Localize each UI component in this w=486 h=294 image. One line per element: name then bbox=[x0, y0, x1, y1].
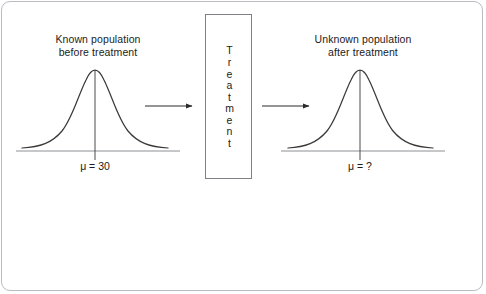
right-mean-label: μ = ? bbox=[315, 160, 405, 172]
treatment-letter-1: r bbox=[228, 57, 232, 69]
left-panel-title: Known population before treatment bbox=[16, 33, 180, 59]
right-panel-title: Unknown population after treatment bbox=[281, 33, 445, 59]
left-distribution-group bbox=[16, 70, 180, 160]
treatment-box: Treatment bbox=[205, 14, 252, 179]
right-distribution-group bbox=[281, 70, 445, 160]
left-mean-label: μ = 30 bbox=[50, 160, 140, 172]
treatment-letter-3: a bbox=[227, 80, 233, 92]
treatment-letter-8: t bbox=[228, 138, 231, 150]
treatment-label-vertical: Treatment bbox=[206, 15, 253, 180]
